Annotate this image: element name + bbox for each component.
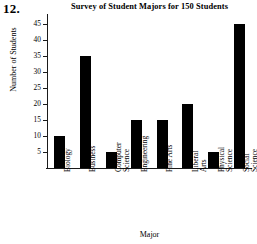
y-tick-label: 15: [27, 116, 41, 124]
y-tick-mark: [43, 152, 48, 153]
y-axis-line: [47, 14, 48, 168]
y-tick-label: 30: [27, 68, 41, 76]
y-tick-mark: [43, 40, 48, 41]
y-tick-mark: [43, 104, 48, 105]
y-tick-label: 35: [27, 52, 41, 60]
y-tick-mark: [43, 72, 48, 73]
x-tick-label: Social Science: [243, 116, 257, 172]
x-tick-label: Biology: [64, 116, 72, 172]
y-tick-mark: [43, 24, 48, 25]
x-tick-label: Physical Science: [218, 116, 234, 172]
x-tick-label: Fine Arts: [166, 116, 174, 172]
y-tick-label: 5: [27, 148, 41, 156]
y-tick-mark: [43, 120, 48, 121]
y-tick-mark: [43, 88, 48, 89]
chart-title: Survey of Student Majors for 150 Student…: [47, 2, 252, 12]
y-tick-mark: [43, 136, 48, 137]
y-tick-mark: [43, 56, 48, 57]
y-tick-label: 40: [27, 36, 41, 44]
y-tick-label: 20: [27, 100, 41, 108]
y-axis-label: Number of Students: [9, 0, 18, 120]
x-tick-label: Engineering: [141, 116, 149, 172]
y-tick-label: 10: [27, 132, 41, 140]
x-tick-label: Liberal Arts: [192, 116, 208, 172]
x-tick-label: Business: [89, 116, 97, 172]
x-tick-label: Computer Science: [115, 116, 131, 172]
bar-chart-figure: 12. Survey of Student Majors for 150 Stu…: [0, 0, 257, 244]
x-axis-label: Major: [47, 230, 252, 239]
y-tick-label: 25: [27, 84, 41, 92]
y-tick-label: 45: [27, 20, 41, 28]
